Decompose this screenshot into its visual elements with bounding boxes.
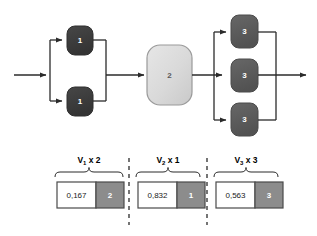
stage1-node-top[interactable] bbox=[67, 26, 93, 55]
group-label-v1-suffix: x 2 bbox=[86, 155, 100, 165]
group-label-v3-subscript: 3 bbox=[240, 160, 243, 166]
brace-group-v3 bbox=[214, 168, 278, 178]
stage1-split-lines bbox=[50, 40, 62, 101]
group-label-v2: V2 x 1 bbox=[134, 155, 202, 165]
stage3-merge-lines bbox=[258, 32, 306, 120]
value-text-v1: 0,167 bbox=[57, 182, 96, 208]
group-label-v2-subscript: 2 bbox=[162, 160, 165, 166]
diagram-canvas: 1 1 2 3 3 3 V1 x 2 V2 x 1 V3 x 3 0,167 2… bbox=[0, 0, 317, 236]
stage3-split-lines bbox=[214, 32, 226, 120]
group-label-v3: V3 x 3 bbox=[212, 155, 280, 165]
stage3-node-bottom[interactable] bbox=[231, 103, 258, 136]
count-text-v2: 1 bbox=[177, 182, 205, 208]
value-text-v3: 0,563 bbox=[216, 182, 255, 208]
group-label-v1: V1 x 2 bbox=[55, 155, 123, 165]
stage1-merge-lines bbox=[93, 40, 144, 101]
count-text-v3: 3 bbox=[255, 182, 283, 208]
count-text-v1: 2 bbox=[96, 182, 124, 208]
brace-group-v2 bbox=[136, 168, 200, 178]
group-label-v2-suffix: x 1 bbox=[165, 155, 179, 165]
value-text-v2: 0,832 bbox=[138, 182, 177, 208]
stage3-node-middle[interactable] bbox=[231, 59, 258, 92]
group-label-v3-suffix: x 3 bbox=[243, 155, 257, 165]
group-label-v1-subscript: 1 bbox=[83, 160, 86, 166]
stage1-node-bottom[interactable] bbox=[67, 87, 93, 116]
stage2-node[interactable] bbox=[147, 45, 192, 105]
stage3-node-top[interactable] bbox=[231, 15, 258, 48]
brace-group-v1 bbox=[55, 168, 123, 178]
